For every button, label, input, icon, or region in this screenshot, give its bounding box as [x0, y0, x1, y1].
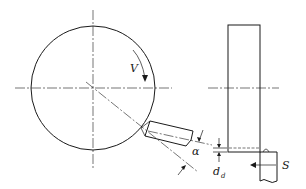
- workpiece: [260, 149, 277, 183]
- velocity-label: V: [130, 62, 139, 75]
- depth-subscript: d: [221, 172, 226, 180]
- tool-tip-edge: [141, 128, 145, 136]
- angle-alpha: α: [178, 130, 203, 175]
- cutting-tool: [141, 121, 212, 146]
- rotation-arrowhead-icon: [142, 75, 148, 82]
- feed-arrow: S: [250, 159, 290, 172]
- diagram-canvas: V α d d S: [0, 0, 306, 189]
- tool-body: [145, 121, 193, 146]
- depth-arrow-bottom-icon: [217, 152, 221, 156]
- feed-arrowhead-icon: [250, 162, 256, 168]
- wheel-rect: [228, 25, 260, 152]
- alpha-arrow-bottom-icon: [181, 165, 186, 170]
- depth-label: d: [213, 165, 220, 178]
- feed-label: S: [282, 159, 290, 172]
- alpha-label: α: [192, 145, 200, 158]
- wheel-side-view: [15, 10, 198, 172]
- depth-dimension: d d: [213, 138, 227, 180]
- depth-arrow-top-icon: [217, 144, 221, 148]
- wheel-front-view: [208, 25, 279, 152]
- workpiece-body: [260, 152, 277, 183]
- tool-centerline: [148, 131, 212, 145]
